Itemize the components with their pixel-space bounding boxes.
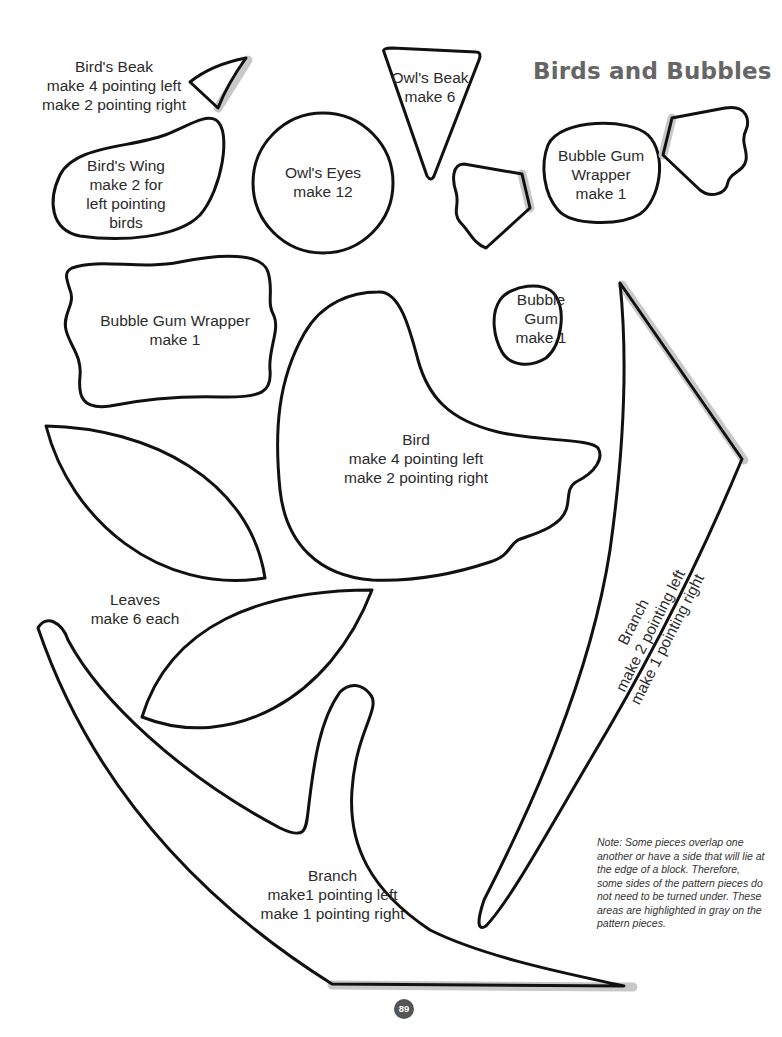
bubble-gum-name2: Gum bbox=[506, 309, 576, 328]
bubble-gum-line-1: make 1 bbox=[506, 328, 576, 347]
owls-eyes-name: Owl's Eyes bbox=[263, 163, 383, 182]
bubble-gum-label: Bubble Gum make 1 bbox=[506, 290, 576, 347]
branch-left-shape bbox=[38, 621, 624, 986]
birds-wing-name: Bird's Wing bbox=[66, 156, 186, 175]
bubble-gum-wrapper-small-name: Bubble Gum bbox=[545, 146, 657, 165]
bubble-gum-wrapper-large-line-1: make 1 bbox=[90, 330, 260, 349]
bird-line-2: make 2 pointing right bbox=[336, 468, 496, 487]
owls-eyes-line-1: make 12 bbox=[263, 182, 383, 201]
leaves-label: Leaves make 6 each bbox=[80, 590, 190, 628]
bird-line-1: make 4 pointing left bbox=[336, 449, 496, 468]
bird-label: Bird make 4 pointing left make 2 pointin… bbox=[336, 430, 496, 487]
owls-beak-line-1: make 6 bbox=[381, 87, 479, 106]
branch-left-label: Branch make1 pointing left make 1 pointi… bbox=[250, 866, 415, 923]
birds-beak-line-2: make 2 pointing right bbox=[38, 95, 190, 114]
bubble-gum-wrapper-large-name: Bubble Gum Wrapper bbox=[90, 311, 260, 330]
bubble-gum-wrapper-small-label: Bubble Gum Wrapper make 1 bbox=[545, 146, 657, 203]
leaves-name: Leaves bbox=[80, 590, 190, 609]
birds-wing-label: Bird's Wing make 2 for left pointing bir… bbox=[66, 156, 186, 232]
bubble-gum-name: Bubble bbox=[506, 290, 576, 309]
birds-beak-name: Bird's Beak bbox=[38, 57, 190, 76]
branch-right-shape bbox=[479, 283, 742, 927]
bubble-gum-wrapper-large-label: Bubble Gum Wrapper make 1 bbox=[90, 311, 260, 349]
owls-eyes-label: Owl's Eyes make 12 bbox=[263, 163, 383, 201]
branch-left-line-2: make 1 pointing right bbox=[250, 904, 415, 923]
leaves-line-1: make 6 each bbox=[80, 609, 190, 628]
branch-left-name: Branch bbox=[250, 866, 415, 885]
page-title: Birds and Bubbles bbox=[533, 58, 772, 84]
branch-left-line-1: make1 pointing left bbox=[250, 885, 415, 904]
birds-wing-line-2: left pointing bbox=[66, 194, 186, 213]
pattern-note: Note: Some pieces overlap one another or… bbox=[597, 836, 767, 931]
bird-name: Bird bbox=[336, 430, 496, 449]
birds-wing-line-3: birds bbox=[66, 213, 186, 232]
bubble-gum-wrapper-small-name2: Wrapper bbox=[545, 165, 657, 184]
page-number-badge: 89 bbox=[394, 999, 414, 1019]
leaf-left-shape bbox=[46, 426, 265, 580]
birds-beak-line-1: make 4 pointing left bbox=[38, 76, 190, 95]
birds-beak-label: Bird's Beak make 4 pointing left make 2 … bbox=[38, 57, 190, 114]
birds-wing-line-1: make 2 for bbox=[66, 175, 186, 194]
owls-beak-label: Owl's Beak make 6 bbox=[381, 68, 479, 106]
owls-beak-name: Owl's Beak bbox=[381, 68, 479, 87]
bubble-gum-wrapper-small-line-1: make 1 bbox=[545, 184, 657, 203]
